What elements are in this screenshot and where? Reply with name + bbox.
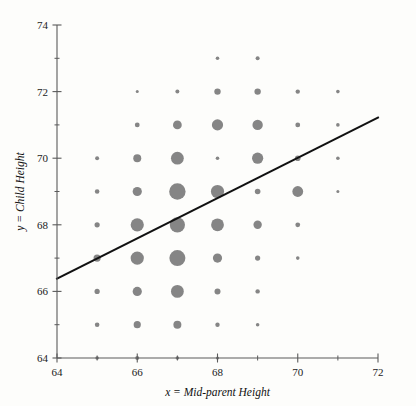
data-point	[173, 321, 181, 329]
axis-labels: 6466687072746466687072x = Mid-parent Hei…	[14, 19, 384, 399]
data-point	[133, 154, 141, 162]
data-point	[95, 289, 100, 294]
y-tick-label: 70	[37, 152, 49, 164]
data-point	[295, 123, 300, 128]
x-tick-label: 68	[212, 366, 224, 378]
data-point	[95, 222, 100, 227]
data-point	[169, 250, 185, 266]
data-point	[252, 153, 263, 164]
data-point	[336, 190, 339, 193]
data-point	[336, 156, 340, 160]
x-tick-label: 70	[292, 366, 304, 378]
data-point	[171, 285, 184, 298]
data-point	[213, 254, 222, 263]
data-point	[256, 323, 260, 327]
data-point	[133, 187, 142, 196]
data-point	[254, 88, 260, 94]
x-axis-title: x = Mid-parent Height	[164, 386, 271, 399]
data-point	[255, 289, 259, 293]
data-point	[336, 90, 340, 94]
data-point	[295, 222, 300, 227]
data-point	[173, 121, 182, 130]
data-point	[255, 256, 260, 261]
data-point	[255, 189, 261, 195]
data-point	[211, 218, 224, 231]
data-point	[134, 321, 141, 328]
data-point	[292, 186, 303, 197]
data-point	[175, 90, 179, 94]
data-point	[135, 123, 140, 128]
data-point	[212, 119, 223, 130]
x-tick-label: 66	[132, 366, 144, 378]
y-tick-label: 66	[37, 285, 49, 297]
x-tick-label: 64	[52, 366, 64, 378]
data-point	[95, 189, 100, 194]
data-point	[133, 287, 142, 296]
y-tick-label: 64	[37, 352, 49, 364]
data-point	[215, 323, 219, 327]
galton-height-scatter-figure: 6466687072746466687072x = Mid-parent Hei…	[0, 0, 416, 406]
data-point	[169, 183, 185, 199]
data-point	[216, 156, 220, 160]
data-point	[215, 288, 221, 294]
data-point	[170, 217, 185, 232]
data-point	[253, 221, 261, 229]
data-point	[256, 56, 260, 60]
data-point	[131, 252, 144, 265]
scatter-plot-canvas: 6466687072746466687072x = Mid-parent Hei…	[0, 0, 416, 406]
data-point	[171, 152, 184, 165]
data-point	[136, 90, 139, 93]
data-point	[252, 120, 262, 130]
y-tick-label: 74	[37, 19, 49, 31]
y-tick-label: 72	[37, 86, 48, 98]
data-point	[296, 256, 300, 260]
data-point	[131, 218, 144, 231]
bubble-series	[94, 56, 340, 360]
y-tick-label: 68	[37, 219, 49, 231]
x-tick-label: 72	[373, 366, 384, 378]
y-axis-title: y = Child Height	[14, 152, 27, 232]
data-point	[214, 88, 220, 94]
data-point	[336, 123, 340, 127]
data-point	[216, 57, 220, 61]
data-point	[95, 156, 99, 160]
data-point	[95, 322, 100, 327]
data-point	[296, 89, 300, 93]
